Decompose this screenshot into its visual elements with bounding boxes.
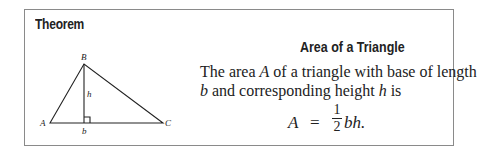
fraction-numerator: 1: [332, 103, 342, 116]
vertex-label-a: A: [39, 118, 46, 128]
fraction-denominator: 2: [332, 120, 342, 133]
statement-text: and corresponding height: [208, 82, 379, 99]
variable-b: b: [200, 82, 208, 99]
formula-equals: =: [310, 113, 320, 133]
statement-text: is: [387, 82, 402, 99]
base-label: b: [82, 126, 87, 136]
height-label: h: [87, 89, 92, 99]
variable-a: A: [260, 63, 270, 80]
theorem-title: Area of a Triangle: [300, 39, 405, 55]
formula-rhs: bh.: [344, 113, 365, 133]
vertex-label-b: B: [81, 52, 87, 62]
statement-text: The area: [200, 63, 260, 80]
variable-h: h: [379, 82, 387, 99]
triangle-outline: [50, 64, 163, 123]
formula-fraction: 1 2: [332, 103, 342, 133]
statement-text: of a triangle with base of length: [269, 63, 477, 80]
right-angle-marker: [84, 117, 90, 123]
formula-lhs: A: [288, 113, 298, 133]
statement-line-1: The area A of a triangle with base of le…: [200, 62, 477, 81]
triangle-figure: B A C h b: [0, 0, 200, 156]
vertex-label-c: C: [165, 118, 172, 128]
theorem-statement: The area A of a triangle with base of le…: [200, 62, 477, 100]
statement-line-2: b and corresponding height h is: [200, 81, 477, 100]
